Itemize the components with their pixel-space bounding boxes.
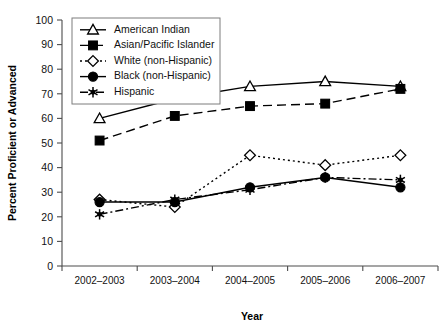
data-point-marker: [246, 102, 255, 111]
legend-label: Asian/Pacific Islander: [114, 38, 215, 50]
data-point-marker: [320, 76, 331, 86]
series-white-non-hispanic: [94, 150, 406, 212]
y-tick-label: 40: [41, 161, 53, 173]
data-point-marker: [245, 150, 256, 161]
x-tick-label: 2004–2005: [225, 275, 275, 286]
legend-label: Black (non-Hispanic): [114, 69, 211, 81]
y-tick-label: 60: [41, 112, 53, 124]
data-point-marker: [320, 160, 331, 171]
y-tick-label: 80: [41, 63, 53, 75]
y-tick-label: 20: [41, 211, 53, 223]
data-point-marker: [396, 84, 405, 93]
chart-canvas: 01020304050607080901002002–20032003–2004…: [0, 0, 445, 326]
x-tick-label: 2003–2004: [150, 275, 200, 286]
y-tick-label: 100: [35, 14, 53, 26]
x-tick-label: 2006–2007: [375, 275, 425, 286]
legend-marker-solid-circle: [88, 72, 97, 81]
y-axis-title: Percent Proficient or Advanced: [6, 65, 18, 221]
legend-marker-solid-square: [89, 41, 98, 50]
x-tick-label: 2002–2003: [75, 275, 125, 286]
y-tick-label: 10: [41, 235, 53, 247]
data-point-marker: [321, 99, 330, 108]
data-point-marker: [170, 112, 179, 121]
legend-label: White (non-Hispanic): [114, 54, 212, 66]
y-tick-label: 30: [41, 186, 53, 198]
y-tick-label: 70: [41, 88, 53, 100]
legend-label: American Indian: [114, 23, 190, 35]
series-hispanic: [95, 172, 405, 219]
y-tick-label: 50: [41, 137, 53, 149]
line-chart: 01020304050607080901002002–20032003–2004…: [0, 0, 445, 326]
x-axis-title: Year: [241, 310, 263, 322]
legend-label: Hispanic: [114, 85, 154, 97]
y-tick-label: 90: [41, 38, 53, 50]
data-point-marker: [395, 150, 406, 161]
chart-legend: American IndianAsian/Pacific IslanderWhi…: [72, 18, 220, 104]
data-point-marker: [95, 197, 104, 206]
x-tick-label: 2005–2006: [300, 275, 350, 286]
y-tick-label: 0: [47, 260, 53, 272]
data-point-marker: [95, 136, 104, 145]
